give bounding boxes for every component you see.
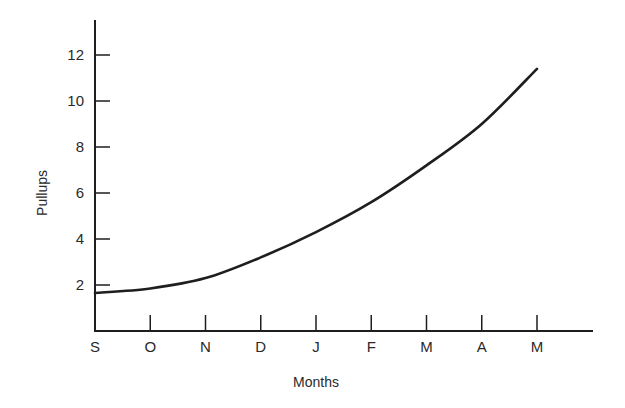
y-tick-label: 4: [76, 230, 84, 247]
y-axis-label: Pullups: [34, 170, 50, 216]
y-ticks: 24681012: [67, 46, 110, 293]
x-tick-label: F: [367, 338, 376, 355]
x-tick-label: N: [200, 338, 211, 355]
x-tick-label: J: [312, 338, 320, 355]
y-tick-label: 2: [76, 276, 84, 293]
x-tick-label: S: [90, 338, 100, 355]
x-tick-label: O: [144, 338, 156, 355]
x-tick-label: M: [531, 338, 544, 355]
y-tick-label: 12: [67, 46, 84, 63]
y-tick-label: 10: [67, 92, 84, 109]
y-tick-label: 8: [76, 138, 84, 155]
x-axis-label: Months: [293, 374, 339, 390]
y-tick-label: 6: [76, 184, 84, 201]
pullups-curve: [95, 69, 537, 293]
x-tick-label: D: [255, 338, 266, 355]
x-ticks: SONDJFMAM: [90, 315, 543, 355]
x-tick-label: M: [420, 338, 433, 355]
x-tick-label: A: [477, 338, 487, 355]
pullups-line-chart: 24681012 SONDJFMAM Months Pullups: [0, 0, 625, 408]
